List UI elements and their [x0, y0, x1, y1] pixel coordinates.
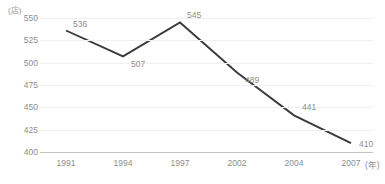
y-axis-tick-label: 500	[0, 58, 38, 68]
gridline	[40, 85, 373, 86]
data-point-label: 441	[302, 102, 316, 112]
plot-area	[40, 18, 373, 152]
x-axis-tick-label: 2002	[228, 158, 247, 168]
data-point-label: 489	[245, 75, 259, 85]
line-chart: (店) 550525500475450425400199119941997200…	[0, 0, 385, 184]
y-axis-tick-label: 525	[0, 35, 38, 45]
y-axis-tick-label: 400	[0, 147, 38, 157]
y-axis-tick-label: 475	[0, 80, 38, 90]
gridline	[40, 18, 373, 19]
data-point-label: 545	[187, 10, 201, 20]
x-axis-tick-label: 2007	[342, 158, 361, 168]
gridline	[40, 130, 373, 131]
y-axis-tick-label: 450	[0, 102, 38, 112]
x-axis-tick-label: 2004	[285, 158, 304, 168]
x-axis-line	[40, 152, 373, 153]
gridline	[40, 63, 373, 64]
gridline	[40, 107, 373, 108]
y-axis-tick-label: 425	[0, 125, 38, 135]
data-point-label: 507	[131, 59, 145, 69]
x-axis-tick-label: 1997	[171, 158, 190, 168]
x-axis-tick-label: 1991	[57, 158, 76, 168]
y-axis-tick-label: 550	[0, 13, 38, 23]
x-axis-tick-label: 1994	[114, 158, 133, 168]
data-point-label: 536	[73, 19, 87, 29]
data-point-label: 410	[359, 139, 373, 149]
gridline	[40, 40, 373, 41]
x-axis-unit-label: (年)	[365, 158, 380, 170]
